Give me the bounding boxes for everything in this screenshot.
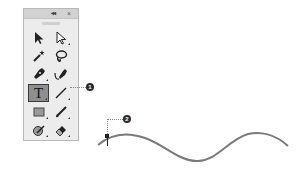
callout-2-badge: 2 — [123, 115, 131, 123]
text-cursor-icon — [107, 138, 108, 146]
wavy-path — [0, 0, 308, 178]
callout-2-leader-vertical — [107, 119, 108, 134]
callout-2-leader-horizontal — [107, 119, 123, 120]
